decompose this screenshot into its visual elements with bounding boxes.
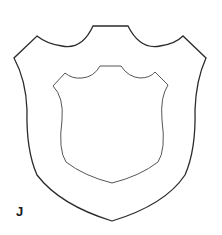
figure-label: J <box>16 205 23 218</box>
inner-shield-outline <box>53 66 168 183</box>
outer-shield-outline <box>14 26 206 221</box>
shield-diagram <box>0 0 222 235</box>
